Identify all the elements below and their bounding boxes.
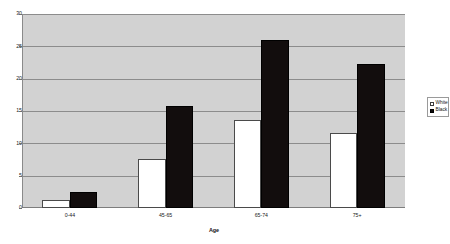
bar-black-0-44: [70, 192, 98, 208]
bar-black-65-74: [261, 40, 289, 208]
x-axis-tick-label: 45-65: [141, 213, 191, 218]
legend-label-black: Black: [436, 108, 448, 113]
x-axis-title: Age: [0, 228, 428, 233]
bar-white-75+: [330, 133, 358, 208]
y-axis-tick-mark: [19, 208, 22, 209]
legend-swatch-black-icon: [430, 109, 434, 113]
bar-black-45-65: [166, 106, 194, 208]
legend-item-white: White: [430, 100, 447, 107]
legend-swatch-white-icon: [430, 102, 434, 106]
bar-black-75+: [357, 64, 385, 208]
bar-white-0-44: [42, 200, 70, 208]
legend-item-black: Black: [430, 107, 447, 114]
legend-label-white: White: [436, 101, 448, 106]
bar-chart: 051015202530 0-4445-6565-7475+ Age White…: [0, 0, 450, 244]
bar-white-65-74: [234, 120, 262, 208]
x-axis-tick-label: 75+: [332, 213, 382, 218]
x-axis-tick-label: 65-74: [236, 213, 286, 218]
y-axis: 051015202530: [0, 0, 22, 244]
chart-legend: White Black: [427, 97, 449, 117]
x-axis-tick-label: 0-44: [45, 213, 95, 218]
bar-white-45-65: [138, 159, 166, 208]
bars-layer: [22, 14, 405, 208]
